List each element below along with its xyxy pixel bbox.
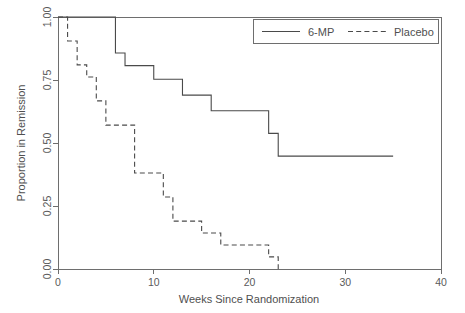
y-axis-tick-labels: 0.000.250.500.751.00 — [41, 7, 53, 280]
y-axis-ticks — [53, 17, 58, 269]
legend-label-placebo: Placebo — [394, 26, 434, 38]
chart-figure: 010203040 0.000.250.500.751.00 Weeks Sin… — [0, 0, 465, 313]
x-tick-label: 40 — [435, 276, 447, 288]
kaplan-meier-chart: 010203040 0.000.250.500.751.00 Weeks Sin… — [0, 0, 465, 313]
legend-label-6-mp: 6-MP — [308, 26, 334, 38]
y-tick-label: 0.00 — [41, 259, 53, 280]
x-tick-label: 10 — [148, 276, 160, 288]
x-tick-label: 0 — [55, 276, 61, 288]
y-tick-label: 0.25 — [41, 196, 53, 217]
y-tick-label: 0.75 — [41, 70, 53, 91]
series-line-placebo — [58, 17, 278, 269]
plot-border — [58, 17, 441, 269]
x-axis-ticks — [58, 269, 441, 274]
y-axis-title: Proportion in Remission — [15, 85, 27, 202]
plot-frame — [58, 17, 441, 269]
x-axis-tick-labels: 010203040 — [55, 276, 447, 288]
y-tick-label: 1.00 — [41, 7, 53, 28]
x-tick-label: 30 — [339, 276, 351, 288]
legend: 6-MP Placebo — [253, 19, 438, 43]
data-series-group — [58, 17, 393, 269]
x-tick-label: 20 — [244, 276, 256, 288]
x-axis-title: Weeks Since Randomization — [179, 293, 319, 305]
y-tick-label: 0.50 — [41, 133, 53, 154]
